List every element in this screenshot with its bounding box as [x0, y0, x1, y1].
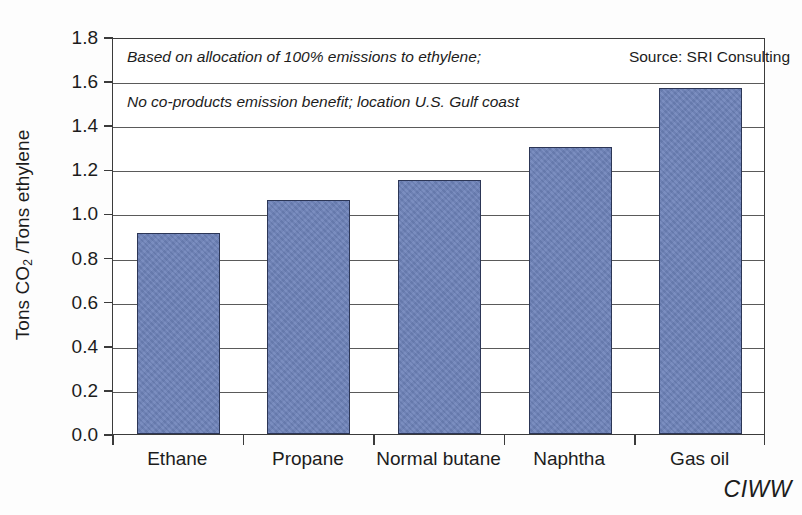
- source-credit: Source: SRI Consulting: [629, 48, 790, 66]
- ciww-logo: CIWW: [724, 476, 792, 503]
- bar-gas-oil: [659, 88, 742, 434]
- gridline: [113, 83, 764, 84]
- x-axis-tick-label: Normal butane: [376, 448, 501, 470]
- chart-figure: Tons CO2 /Tons ethylene 0.00.20.40.60.81…: [0, 0, 802, 515]
- y-axis-tick-label: 0.2: [38, 380, 98, 402]
- bar-propane: [267, 200, 350, 434]
- x-axis-tick-label: Naphtha: [533, 448, 605, 470]
- annotation-line-2: No co-products emission benefit; locatio…: [127, 93, 519, 111]
- x-axis-tick-label: Gas oil: [670, 448, 729, 470]
- y-axis-tick-label: 1.4: [38, 115, 98, 137]
- x-axis-tick: [504, 435, 506, 445]
- y-axis-tick-label: 0.8: [38, 248, 98, 270]
- y-axis-tick-label: 1.6: [38, 71, 98, 93]
- x-axis-tick-label: Propane: [272, 448, 344, 470]
- x-axis-tick: [764, 435, 766, 445]
- annotation-line-1: Based on allocation of 100% emissions to…: [127, 48, 481, 66]
- y-axis-title-prefix: Tons CO: [12, 266, 33, 341]
- x-axis-tick: [373, 435, 375, 445]
- y-axis-tick-label: 0.6: [38, 292, 98, 314]
- x-axis-tick-label: Ethane: [147, 448, 207, 470]
- x-axis-tick: [243, 435, 245, 445]
- y-axis-title: Tons CO2 /Tons ethylene: [12, 130, 34, 341]
- x-axis-tick: [112, 435, 114, 445]
- y-axis-tick-label: 0.0: [38, 424, 98, 446]
- y-axis-tick-label: 1.0: [38, 203, 98, 225]
- bar-ethane: [137, 233, 220, 434]
- x-axis-tick: [634, 435, 636, 445]
- y-axis-title-subscript: 2: [21, 259, 35, 266]
- y-axis-tick-label: 1.2: [38, 159, 98, 181]
- bar-normal-butane: [398, 180, 481, 434]
- y-axis-tick-label: 0.4: [38, 336, 98, 358]
- y-axis-tick-label: 1.8: [38, 27, 98, 49]
- y-axis-title-suffix: /Tons ethylene: [12, 130, 33, 259]
- bar-naphtha: [529, 147, 612, 434]
